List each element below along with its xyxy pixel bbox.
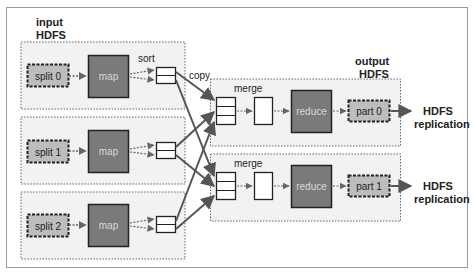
map-0-label: map xyxy=(99,71,119,82)
output-hdfs-label-line2: HDFS xyxy=(359,68,389,80)
map-task-group-1: split 1 map xyxy=(21,117,185,184)
sort-label: sort xyxy=(138,53,155,64)
output-hdfs-label-line1: output xyxy=(355,55,390,67)
reduce-task-group-0: merge reduce part 0 xyxy=(211,79,401,146)
split-2-label: split 2 xyxy=(35,221,62,232)
merge-label-1: merge xyxy=(234,158,263,169)
hdfs-replication-0-line2: replication xyxy=(414,118,470,130)
input-hdfs-label-line2: HDFS xyxy=(36,29,66,41)
mapreduce-data-flow-diagram: input HDFS output HDFS split 0 map sort … xyxy=(0,0,474,275)
merge-input-buffer-0 xyxy=(217,98,236,125)
hdfs-replication-1-line2: replication xyxy=(414,193,470,205)
merged-output-1 xyxy=(255,173,273,200)
merge-label-0: merge xyxy=(234,83,263,94)
reduce-1-label: reduce xyxy=(296,181,327,192)
map-task-group-2: split 2 map xyxy=(21,192,185,259)
map-2-label: map xyxy=(99,220,119,231)
input-hdfs-label-line1: input xyxy=(36,16,63,28)
reduce-0-label: reduce xyxy=(296,106,327,117)
hdfs-replication-0-line1: HDFS xyxy=(423,105,453,117)
split-1-label: split 1 xyxy=(35,147,62,158)
merge-input-buffer-1 xyxy=(217,173,236,200)
split-0-label: split 0 xyxy=(35,71,62,82)
reduce-task-group-1: merge reduce part 1 xyxy=(211,154,401,221)
merged-output-0 xyxy=(255,98,273,125)
map-1-label: map xyxy=(99,146,119,157)
copy-label: copy xyxy=(189,70,210,81)
part-1-label: part 1 xyxy=(356,181,382,192)
map-task-group-0: split 0 map sort xyxy=(21,42,185,109)
hdfs-replication-1-line1: HDFS xyxy=(423,180,453,192)
part-0-label: part 0 xyxy=(356,106,382,117)
